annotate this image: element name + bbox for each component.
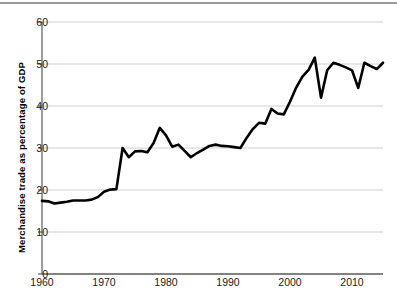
plot-area (0, 0, 397, 305)
x-axis-tick-label: 1970 (84, 276, 124, 288)
y-axis-tick-label: 50 (22, 58, 48, 70)
y-axis-tick-label: 30 (22, 142, 48, 154)
x-axis-tick-label: 1980 (146, 276, 186, 288)
x-axis-tick-label: 2010 (332, 276, 372, 288)
y-axis-tick-label: 40 (22, 100, 48, 112)
y-axis-tick-labels: 0102030405060 (18, 0, 48, 305)
gridlines (42, 22, 383, 274)
data-series-line (42, 58, 383, 204)
x-axis-tick-label: 1960 (22, 276, 62, 288)
y-axis-tick-label: 10 (22, 226, 48, 238)
x-axis-tick-labels: 196019701980199020002010 (0, 276, 397, 296)
x-axis-tick-label: 2000 (270, 276, 310, 288)
line-chart: Merchandise trade as percentage of GDP 0… (0, 0, 397, 305)
y-axis-tick-label: 60 (22, 16, 48, 28)
y-axis-tick-label: 20 (22, 184, 48, 196)
x-axis-tick-label: 1990 (208, 276, 248, 288)
